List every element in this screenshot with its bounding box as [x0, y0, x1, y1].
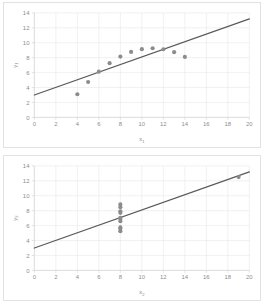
- y-tick-label: 2: [26, 253, 29, 259]
- x-tick-label: 18: [225, 121, 232, 127]
- y-tick-label: 0: [26, 115, 30, 121]
- data-point: [75, 92, 79, 96]
- x-tick-label: 4: [76, 121, 80, 127]
- axes: [32, 166, 249, 273]
- y-tick-label: 14: [23, 163, 30, 169]
- y-tick-label: 12: [23, 178, 30, 184]
- y-tick-label: 4: [26, 238, 30, 244]
- x-tick-label: 10: [139, 274, 146, 280]
- data-point: [118, 209, 122, 213]
- figure-container: 0246810121416182002468101214x1y1 0246810…: [0, 0, 264, 305]
- scatter-chart-top: 0246810121416182002468101214x1y1: [4, 3, 260, 147]
- x-tick-label: 6: [97, 121, 101, 127]
- x-tick-label: 16: [203, 274, 210, 280]
- x-axis-title: x1: [139, 136, 145, 144]
- x-axis-tick-labels: 02468101214161820: [33, 121, 254, 127]
- y-axis-title-subscript: 2: [14, 215, 19, 218]
- data-point: [108, 61, 112, 65]
- y-tick-label: 12: [23, 25, 30, 31]
- x-axis-title-subscript: 1: [142, 139, 145, 144]
- y-tick-label: 4: [26, 85, 30, 91]
- y-axis-title-subscript: 1: [14, 62, 19, 65]
- chart-panel-top: 0246810121416182002468101214x1y1: [3, 2, 261, 148]
- x-tick-label: 20: [246, 121, 253, 127]
- x-tick-label: 8: [119, 121, 123, 127]
- gridlines: [34, 166, 249, 271]
- x-tick-label: 12: [160, 121, 167, 127]
- x-tick-label: 2: [54, 274, 57, 280]
- y-axis-title: y2: [12, 215, 20, 221]
- x-tick-label: 6: [97, 274, 101, 280]
- y-tick-label: 8: [26, 55, 30, 61]
- y-tick-label: 2: [26, 100, 29, 106]
- x-tick-label: 10: [139, 121, 146, 127]
- data-points: [75, 46, 187, 96]
- data-point: [161, 47, 165, 51]
- y-axis-tick-labels: 02468101214: [23, 163, 30, 274]
- x-tick-label: 18: [225, 274, 232, 280]
- y-tick-label: 6: [26, 70, 30, 76]
- data-point: [118, 227, 122, 231]
- x-tick-label: 4: [76, 274, 80, 280]
- x-tick-label: 14: [182, 274, 189, 280]
- x-tick-label: 12: [160, 274, 167, 280]
- data-point: [86, 80, 90, 84]
- scatter-chart-bottom: 0246810121416182002468101214x2y2: [4, 156, 260, 300]
- x-tick-label: 8: [119, 274, 123, 280]
- x-tick-label: 0: [33, 274, 37, 280]
- x-axis-title: x2: [139, 289, 145, 297]
- x-tick-label: 14: [182, 121, 189, 127]
- data-point: [151, 46, 155, 50]
- y-tick-label: 14: [23, 10, 30, 16]
- x-tick-label: 0: [33, 121, 37, 127]
- data-point: [140, 47, 144, 51]
- data-points: [118, 175, 240, 233]
- chart-panel-bottom: 0246810121416182002468101214x2y2: [3, 155, 261, 301]
- y-tick-label: 8: [26, 208, 30, 214]
- data-point: [97, 70, 101, 74]
- y-tick-label: 10: [23, 193, 30, 199]
- data-point: [118, 205, 122, 209]
- axes: [32, 13, 249, 120]
- y-tick-label: 10: [23, 40, 30, 46]
- data-point: [118, 217, 122, 221]
- data-point: [237, 175, 241, 179]
- x-tick-label: 20: [246, 274, 253, 280]
- data-point: [183, 55, 187, 59]
- y-axis-tick-labels: 02468101214: [23, 10, 30, 121]
- y-axis-title: y1: [12, 62, 20, 68]
- x-tick-label: 16: [203, 121, 210, 127]
- y-tick-label: 0: [26, 268, 30, 274]
- x-axis-tick-labels: 02468101214161820: [33, 274, 254, 280]
- x-tick-label: 2: [54, 121, 57, 127]
- data-point: [129, 50, 133, 54]
- y-tick-label: 6: [26, 223, 30, 229]
- data-point: [172, 50, 176, 54]
- x-axis-title-subscript: 2: [142, 292, 145, 297]
- gridlines: [34, 13, 249, 118]
- data-point: [118, 55, 122, 59]
